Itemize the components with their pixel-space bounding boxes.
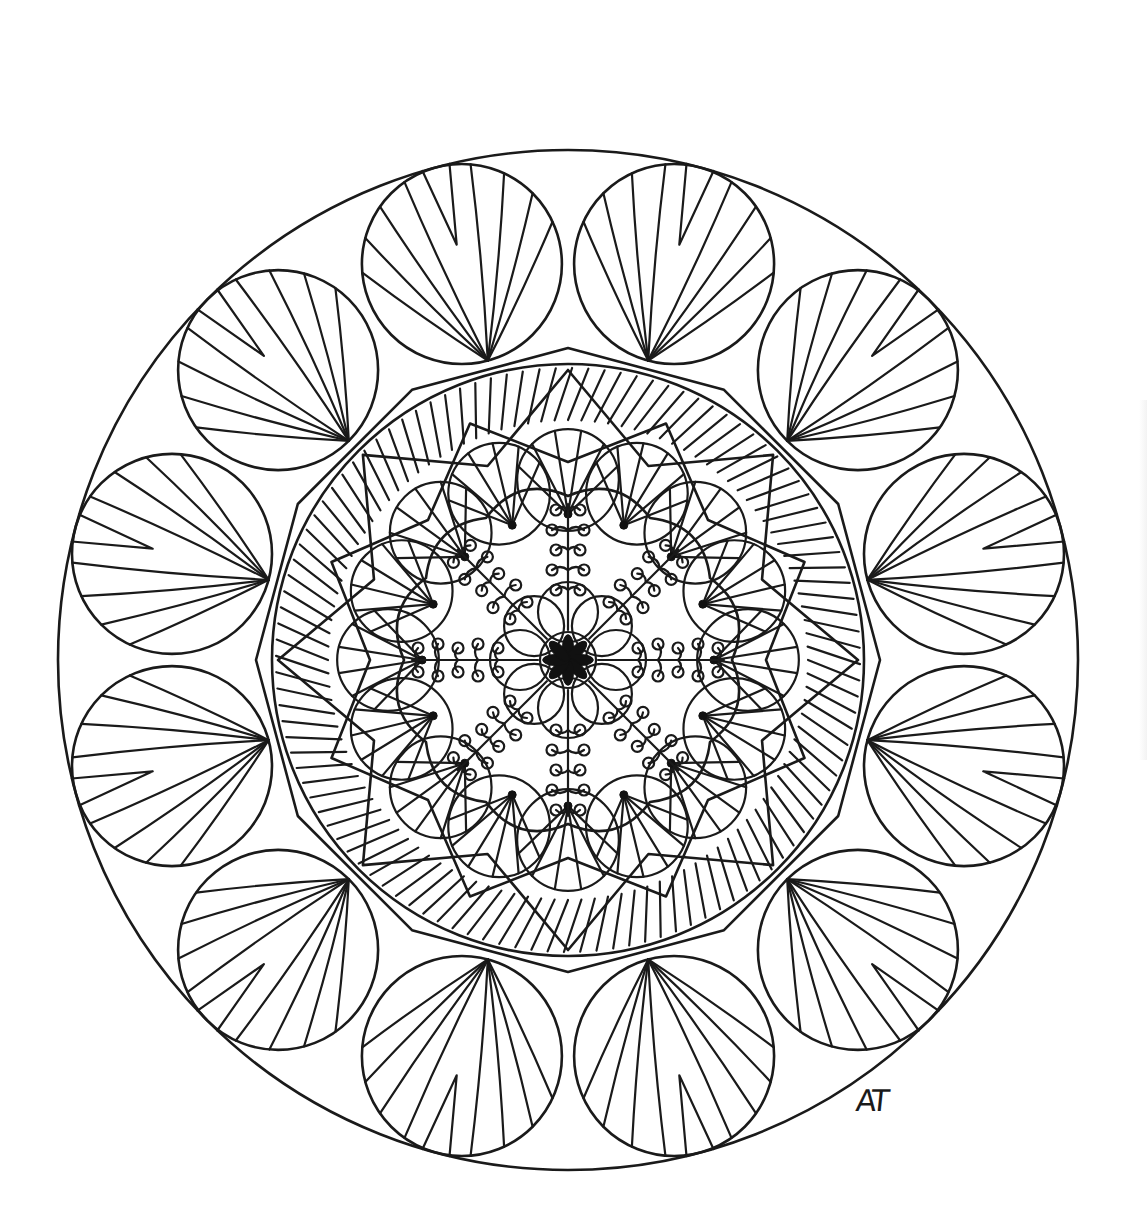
artist-signature: AT (854, 1083, 888, 1118)
center-flower-icon (540, 632, 596, 688)
scan-edge-shadow (1139, 400, 1147, 760)
mandala-artwork (0, 0, 1147, 1230)
